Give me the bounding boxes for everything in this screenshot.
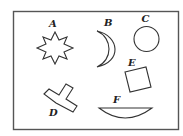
label-c: C xyxy=(142,13,150,24)
shapes-diagram: A B C D E F xyxy=(0,0,183,136)
label-d: D xyxy=(48,107,58,118)
star-icon xyxy=(37,32,73,64)
square-icon xyxy=(125,67,151,92)
label-b: B xyxy=(103,17,112,28)
label-a: A xyxy=(48,18,57,29)
label-f: F xyxy=(112,94,121,105)
label-e: E xyxy=(127,57,136,68)
circle-icon xyxy=(134,27,159,52)
